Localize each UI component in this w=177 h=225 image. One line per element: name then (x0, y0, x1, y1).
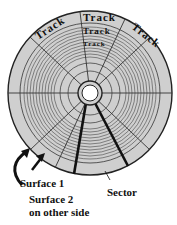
track-label-top: Track (83, 11, 116, 23)
track-label-mid: Track (83, 26, 111, 36)
surface2-label-line2: on other side (29, 206, 89, 218)
spindle-hole (82, 85, 98, 101)
surface2-label-line1: Surface 2 (29, 193, 73, 205)
surface1-label: Surface 1 (20, 177, 64, 189)
disk-diagram: Track Track Track Track Track (0, 0, 177, 225)
track-label-inner: Track (83, 40, 106, 48)
sector-label: Sector (107, 186, 137, 198)
